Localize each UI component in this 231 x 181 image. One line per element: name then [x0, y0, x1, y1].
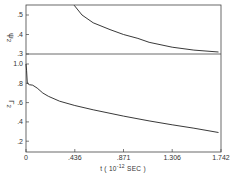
y-tick-label: .6: [17, 99, 23, 106]
x-tick-label: .871: [117, 154, 131, 161]
psi2-curve: [74, 5, 218, 52]
chart: .3.4.5 .2.4.6.81.0 0.436.8711.3061.742 ψ…: [0, 0, 231, 181]
y-tick-label: .3: [17, 50, 23, 57]
y-tick-label: .8: [17, 80, 23, 87]
x-tick-label: 1.306: [163, 154, 181, 161]
y-tick-label: .4: [17, 31, 23, 38]
x-tick-label: 0: [24, 154, 28, 161]
plot-frame: [26, 5, 221, 152]
x-axis-label: t ( 10-12 SEC ): [100, 163, 146, 173]
top-y-axis-label: ψ2: [6, 33, 16, 43]
y-tick-label: 1.0: [13, 60, 23, 67]
x-ticks: 0.436.8711.3061.742: [24, 149, 230, 161]
gamma2-curve: [26, 64, 219, 133]
y-tick-label: .2: [17, 138, 23, 145]
top-y-ticks: .3.4.5: [17, 11, 29, 57]
y-tick-label: .4: [17, 118, 23, 125]
x-tick-label: 1.742: [212, 154, 230, 161]
y-tick-label: .5: [17, 11, 23, 18]
bottom-y-axis-label: Γ2: [6, 100, 16, 108]
x-tick-label: .436: [68, 154, 82, 161]
